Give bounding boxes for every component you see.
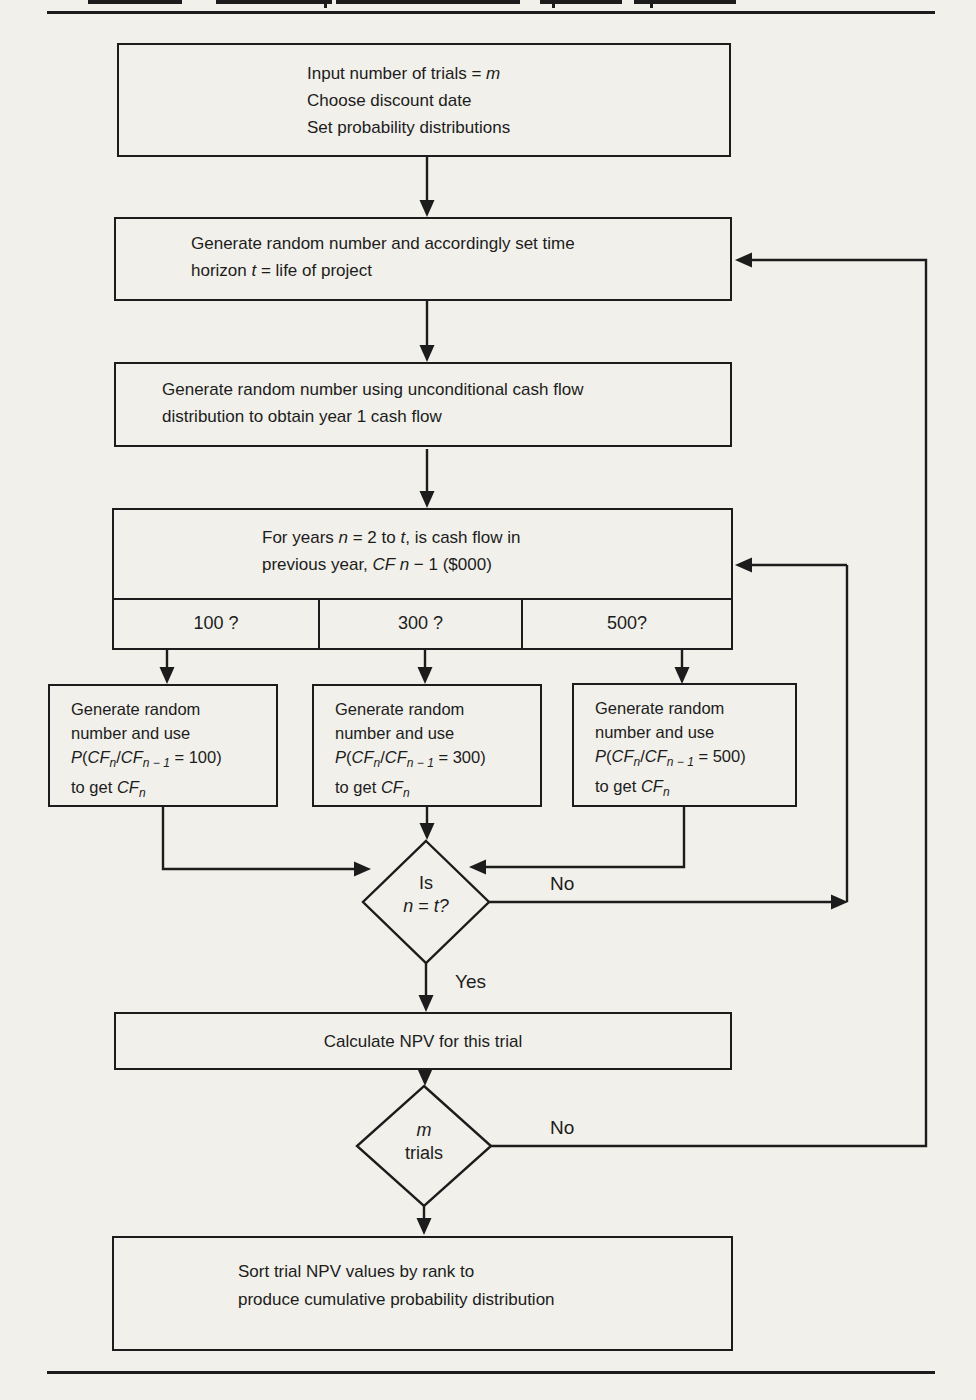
arrow-npv-to-decision-m [418, 1069, 433, 1086]
cell-500: 500? [523, 600, 731, 648]
sort-line2: produce cumulative probability distribut… [238, 1286, 555, 1314]
bottom-rule [47, 1371, 935, 1374]
decision-m-line2: trials [357, 1142, 491, 1165]
arrow-decision-m-to-sort [417, 1206, 432, 1235]
connector-cf500-to-decision [469, 807, 684, 875]
cf500-value: 500 [713, 747, 741, 765]
arrow-cell-100-down [160, 650, 175, 684]
npv-box: Calculate NPV for this trial [114, 1012, 732, 1070]
arrow-year1-to-question [420, 449, 435, 508]
connector-cf300-to-decision [420, 807, 435, 840]
variable-n: n [339, 528, 348, 547]
cf-box-100: Generate random number and use P(CFn/CFn… [48, 684, 278, 807]
question-line2: previous year, CF n − 1 ($000) [262, 551, 520, 578]
cell-100: 100 ? [114, 600, 318, 648]
decision-m-label: m trials [357, 1119, 491, 1165]
time-horizon-box: Generate random number and accordingly s… [114, 217, 732, 301]
question-line1: For years n = 2 to t, is cash flow in [262, 524, 520, 551]
year1-cashflow-box: Generate random number using uncondition… [114, 362, 732, 447]
cf-box-300: Generate random number and use P(CFn/CFn… [312, 684, 542, 807]
decision-m-var: m [357, 1119, 491, 1142]
sort-box: Sort trial NPV values by rank to produce… [112, 1236, 733, 1351]
start-box: Input number of trials = m Choose discou… [117, 43, 731, 157]
cell-300: 300 ? [318, 600, 523, 648]
cf100-formula: P(CFn/CFn − 1 = 100) [71, 745, 222, 775]
cf500-line4: to get CFn [595, 774, 746, 804]
arrow-decision-n-to-npv [419, 963, 434, 1012]
cf500-formula: P(CFn/CFn − 1 = 500) [595, 744, 746, 774]
cf500-line1: Generate random [595, 696, 746, 720]
cf100-line1: Generate random [71, 697, 222, 721]
year1-line2: distribution to obtain year 1 cash flow [162, 403, 583, 430]
start-box-line1: Input number of trials = m [307, 60, 510, 87]
cashflow-question-box: For years n = 2 to t, is cash flow in pr… [112, 508, 733, 650]
decision-n-line1: Is [363, 872, 489, 895]
arrow-horizon-to-year1 [420, 301, 435, 362]
yes-label: Yes [455, 971, 486, 993]
cf300-formula: P(CFn/CFn − 1 = 300) [335, 745, 486, 775]
scanned-flowchart-page: Input number of trials = m Choose discou… [0, 0, 976, 1400]
cf100-value: 100 [189, 748, 217, 766]
sort-line1: Sort trial NPV values by rank to [238, 1258, 555, 1286]
cf300-line2: number and use [335, 721, 486, 745]
connector-cf100-to-decision [163, 807, 371, 877]
decision-n-label: Is n = t? [363, 872, 489, 918]
decision-n-line2: n = t? [363, 895, 489, 918]
cf100-line2: number and use [71, 721, 222, 745]
npv-text: Calculate NPV for this trial [116, 1028, 730, 1055]
cf300-line1: Generate random [335, 697, 486, 721]
cf300-value: 300 [453, 748, 481, 766]
variable-m: m [486, 64, 500, 83]
cf-box-500: Generate random number and use P(CFn/CFn… [572, 683, 797, 807]
start-box-line3: Set probability distributions [307, 114, 510, 141]
arrow-start-to-horizon [420, 157, 435, 217]
question-cell-row: 100 ? 300 ? 500? [114, 598, 731, 648]
arrow-cell-500-down [675, 650, 690, 684]
start-box-line2: Choose discount date [307, 87, 510, 114]
time-horizon-line1: Generate random number and accordingly s… [191, 230, 575, 257]
no-label-decision-n: No [550, 873, 574, 895]
cf100-line4: to get CFn [71, 775, 222, 805]
year1-line1: Generate random number using uncondition… [162, 376, 583, 403]
no-label-decision-m: No [550, 1117, 574, 1139]
time-horizon-line2: horizon t = life of project [191, 257, 575, 284]
arrow-cell-300-down [418, 650, 433, 684]
cf500-line2: number and use [595, 720, 746, 744]
cf300-line4: to get CFn [335, 775, 486, 805]
variable-cf: CF n [373, 555, 410, 574]
